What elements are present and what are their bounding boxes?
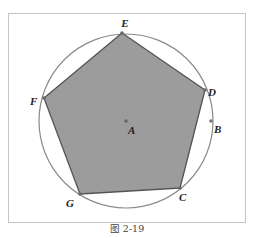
label-E: E (120, 17, 128, 29)
figure-caption: 图 2-19 (110, 223, 144, 234)
geometry-figure: E D B C G F A 图 2-19 (0, 0, 254, 238)
point-B (209, 119, 213, 123)
label-C: C (179, 191, 187, 203)
label-B: B (213, 123, 221, 135)
label-A: A (127, 124, 135, 136)
point-E (120, 31, 124, 35)
point-A-center (124, 119, 128, 123)
label-D: D (207, 86, 216, 98)
label-G: G (66, 197, 74, 209)
label-F: F (29, 95, 38, 107)
point-D (203, 88, 207, 92)
point-F (42, 96, 46, 100)
point-G (78, 192, 82, 196)
point-C (178, 186, 182, 190)
